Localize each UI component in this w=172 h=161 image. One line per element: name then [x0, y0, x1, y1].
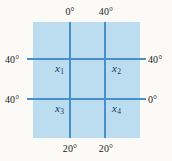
left-label-2: 40° — [5, 94, 19, 105]
plate-region — [33, 22, 140, 138]
right-label-2: 0° — [148, 94, 157, 105]
horizontal-grid-line-2 — [27, 98, 146, 100]
node-label-x2: x2 — [112, 62, 121, 76]
node-subscript-x2: 2 — [117, 67, 121, 76]
vertical-grid-line-1 — [69, 22, 71, 138]
bottom-label-1: 20° — [63, 143, 77, 154]
node-label-x4: x4 — [112, 102, 121, 116]
vertical-grid-line-2 — [104, 22, 106, 138]
node-label-x3: x3 — [55, 102, 64, 116]
node-subscript-x1: 1 — [60, 67, 64, 76]
top-label-1: 0° — [65, 6, 74, 17]
node-subscript-x4: 4 — [117, 107, 121, 116]
top-label-2: 40° — [99, 6, 113, 17]
node-subscript-x3: 3 — [60, 107, 64, 116]
left-label-1: 40° — [5, 54, 19, 65]
right-label-1: 40° — [148, 54, 162, 65]
node-label-x1: x1 — [55, 62, 64, 76]
finite-difference-grid-figure: 0° 40° 40° 40° 40° 0° 20° 20° x1 x2 x3 x… — [0, 0, 172, 161]
bottom-label-2: 20° — [99, 143, 113, 154]
horizontal-grid-line-1 — [27, 58, 146, 60]
